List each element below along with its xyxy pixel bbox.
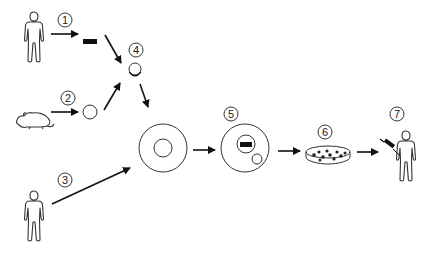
- human-figure-icon: [397, 131, 416, 181]
- svg-text:1: 1: [62, 14, 68, 26]
- large-cell-icon: [139, 124, 187, 172]
- svg-text:5: 5: [228, 108, 234, 120]
- svg-text:4: 4: [133, 44, 139, 56]
- human-figure-icon: [25, 191, 44, 241]
- svg-text:7: 7: [394, 108, 400, 120]
- step-label-3: 3: [58, 173, 72, 187]
- step-label-7: 7: [390, 107, 404, 121]
- arrow-1-to-4: [105, 35, 121, 63]
- patient: [397, 131, 416, 181]
- combined-cell-icon: [129, 63, 141, 77]
- step-label-5: 5: [224, 107, 238, 121]
- mouse: [17, 113, 54, 129]
- arrow-4-to-cell: [140, 84, 148, 107]
- step-label-4: 4: [129, 43, 143, 57]
- svg-text:6: 6: [322, 126, 328, 138]
- step-label-2: 2: [61, 91, 75, 105]
- arrow-2-to-4: [104, 83, 120, 110]
- svg-text:3: 3: [62, 174, 68, 186]
- step-label-1: 1: [58, 13, 72, 27]
- human-donor-1: [25, 12, 44, 62]
- mouse-icon: [17, 113, 54, 129]
- small-cell-icon: [83, 105, 97, 119]
- petri-dish-icon: [306, 146, 350, 164]
- process-diagram: 1 2 4 3 5: [0, 0, 434, 255]
- syringe-icon: [380, 138, 399, 155]
- human-donor-3: [25, 191, 44, 241]
- dna-fragment-icon: [83, 39, 97, 44]
- svg-text:2: 2: [65, 92, 71, 104]
- modified-cell-icon: [221, 124, 269, 172]
- human-figure-icon: [25, 12, 44, 62]
- step-label-6: 6: [318, 125, 332, 139]
